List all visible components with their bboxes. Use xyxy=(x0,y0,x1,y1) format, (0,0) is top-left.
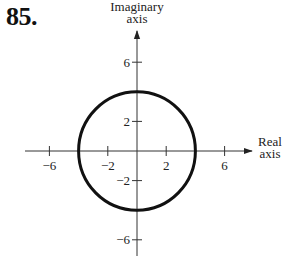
x-tick-label: 6 xyxy=(221,158,228,173)
axes xyxy=(25,31,252,256)
complex-plane-chart: −6−22662−2−6 ImaginaryaxisRealaxis xyxy=(0,0,301,260)
x-tick-label: −2 xyxy=(101,158,115,173)
axis-labels: ImaginaryaxisRealaxis xyxy=(110,0,282,161)
y-tick-label: 6 xyxy=(124,55,131,70)
y-axis-label: axis xyxy=(127,11,148,26)
y-tick-label: 2 xyxy=(124,114,131,129)
x-tick-label: 2 xyxy=(163,158,170,173)
y-tick-label: −2 xyxy=(116,173,130,188)
x-axis-label: axis xyxy=(260,146,281,161)
x-tick-label: −6 xyxy=(42,158,56,173)
y-tick-label: −6 xyxy=(116,232,130,247)
